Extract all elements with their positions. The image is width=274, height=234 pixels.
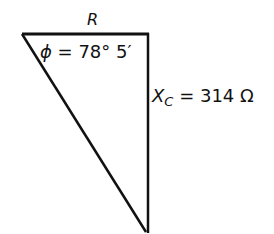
impedance-triangle [0, 0, 274, 234]
reactance-value: = 314 Ω [173, 85, 253, 106]
capacitive-reactance-label: XC = 314 Ω [152, 85, 254, 109]
phase-angle-label: ϕ = 78° 5′ [40, 41, 132, 62]
phi-symbol: ϕ [40, 41, 52, 62]
resistance-label: R [87, 10, 98, 29]
reactance-symbol: X [152, 85, 164, 106]
phase-angle-value: = 78° 5′ [52, 41, 132, 62]
impedance-hypotenuse [22, 34, 146, 232]
